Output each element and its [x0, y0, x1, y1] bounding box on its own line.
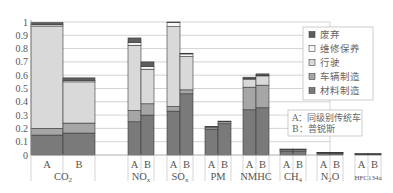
bar-label: A: [170, 159, 178, 170]
bar-segment: [31, 135, 63, 155]
bar-segment: [317, 152, 330, 153]
y-tick-label: 0.3: [16, 110, 29, 121]
bar-segment: [31, 26, 63, 128]
bar-segment: [167, 106, 180, 111]
bar-segment: [63, 82, 95, 123]
group-label: CH4: [284, 171, 303, 184]
bar-label: A: [43, 159, 51, 170]
bar-segment: [128, 122, 141, 155]
bar-label: B: [371, 159, 378, 170]
bar-label: B: [333, 159, 340, 170]
bar-segment: [128, 43, 141, 46]
bar-segment: [256, 76, 269, 85]
bar-segment: [355, 154, 368, 155]
y-tick-label: 1: [23, 17, 28, 28]
group-label: HFC134a: [354, 174, 382, 182]
y-tick-label: 0.4: [16, 96, 29, 107]
bar-label: B: [221, 159, 228, 170]
bar-segment: [293, 149, 306, 150]
y-tick-label: 0.2: [16, 123, 29, 134]
bar-segment: [141, 62, 154, 67]
annotation-line: B：普锐斯: [292, 123, 335, 134]
bar-segment: [141, 115, 154, 155]
bar-label: A: [131, 159, 139, 170]
bar-segment: [180, 94, 193, 155]
bar-segment: [218, 124, 231, 155]
y-tick-label: 0.8: [16, 43, 29, 54]
bar-segment: [280, 149, 293, 150]
legend-label: 车辆制造: [320, 71, 360, 82]
bar-segment: [293, 151, 306, 155]
legend-label: 材料制造: [320, 85, 360, 96]
bar-segment: [167, 27, 180, 107]
bar-segment: [256, 85, 269, 108]
bar-segment: [128, 45, 141, 110]
legend-label: 废弃: [320, 29, 340, 40]
annotation-line: A：同级别传统车: [291, 112, 362, 123]
bar-segment: [256, 108, 269, 155]
bar-label: B: [259, 159, 266, 170]
bar-segment: [180, 54, 193, 57]
bar-segment: [63, 133, 95, 155]
annotation-box: A：同级别传统车B：普锐斯: [288, 110, 362, 136]
bar-segment: [243, 77, 256, 78]
bar-segment: [141, 67, 154, 70]
legend-swatch: [309, 32, 315, 38]
group-label: CO2: [54, 171, 73, 184]
legend-swatch: [309, 46, 315, 52]
bar-segment: [167, 111, 180, 155]
bar-segment: [256, 74, 269, 75]
bar-segment: [128, 38, 141, 43]
bar-segment: [180, 57, 193, 90]
bar-segment: [330, 152, 343, 153]
y-tick-label: 0.7: [16, 56, 29, 67]
bar-label: B: [183, 159, 190, 170]
bar-label: A: [208, 159, 216, 170]
legend-label: 维修保养: [320, 43, 360, 54]
bar-segment: [167, 23, 180, 27]
bar-segment: [141, 104, 154, 115]
bar-segment: [180, 90, 193, 94]
bar-segment: [31, 128, 63, 135]
bar-segment: [205, 129, 218, 155]
bar-segment: [167, 22, 180, 23]
bar-segment: [128, 110, 141, 121]
y-tick-label: 0.6: [16, 70, 29, 81]
bar-segment: [218, 121, 231, 122]
legend-swatch: [309, 60, 315, 66]
bar-label: B: [296, 159, 303, 170]
bar-segment: [243, 110, 256, 155]
y-tick-label: 0.9: [16, 30, 29, 41]
bar-segment: [368, 154, 381, 155]
y-tick-label: 0: [23, 150, 28, 161]
bar-segment: [63, 78, 95, 81]
bar-label: A: [320, 159, 328, 170]
bar-label: A: [358, 159, 366, 170]
group-label: NMHC: [240, 171, 272, 182]
group-label: SOx: [172, 171, 189, 184]
x-axis: ABCO2ABNOxABSOxABPMABNMHCABCH4ABN2OABHFC…: [31, 155, 383, 184]
bar-segment: [205, 126, 218, 127]
bar-label: A: [246, 159, 254, 170]
bar-label: A: [283, 159, 291, 170]
legend-swatch: [309, 74, 315, 80]
y-tick-label: 0.5: [16, 83, 29, 94]
bar-segment: [243, 87, 256, 110]
bar-segment: [243, 79, 256, 87]
legend-swatch: [309, 88, 315, 94]
y-tick-label: 0.1: [16, 136, 29, 147]
bar-segment: [63, 123, 95, 133]
group-label: NOx: [132, 171, 151, 184]
legend: 废弃维修保养行驶车辆制造材料制造: [303, 27, 373, 100]
bar-segment: [180, 53, 193, 54]
stacked-bar-chart: 00.10.20.30.40.50.60.70.80.91 ABCO2ABNOx…: [0, 0, 393, 193]
bar-segment: [141, 69, 154, 104]
bar-segment: [280, 151, 293, 155]
bar-label: B: [144, 159, 151, 170]
bar-segment: [31, 23, 63, 25]
group-label: PM: [210, 171, 226, 182]
legend-label: 行驶: [320, 57, 340, 68]
bar-label: B: [75, 159, 82, 170]
